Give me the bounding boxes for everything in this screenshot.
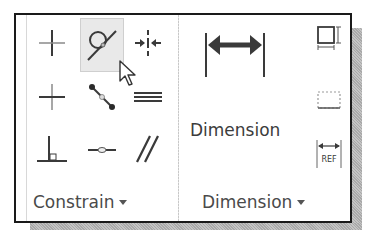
chevron-down-icon [119, 200, 127, 205]
coincident-icon [36, 27, 68, 59]
parallel-icon [132, 133, 164, 165]
linear-dimension-icon [202, 31, 268, 81]
concentric-icon [86, 133, 118, 165]
panel-separator [178, 15, 179, 221]
constrain-panel-dropdown[interactable]: Constrain [33, 192, 127, 212]
constrain-panel-label: Constrain [33, 192, 114, 212]
fix-icon [36, 81, 68, 113]
show-constraints-button[interactable] [314, 83, 344, 117]
equal-button[interactable] [128, 73, 168, 121]
driven-dimension-button[interactable]: REF [314, 137, 344, 171]
perpendicular-button[interactable] [32, 125, 72, 173]
svg-text:REF: REF [321, 155, 337, 164]
panel-inner-edge [26, 15, 27, 221]
tangent-icon [84, 27, 120, 63]
auto-dimension-button[interactable] [314, 21, 344, 55]
dimension-panel-dropdown[interactable]: Dimension [202, 192, 305, 212]
collinear-button[interactable] [82, 73, 122, 121]
equal-icon [132, 81, 164, 113]
auto-dimension-icon [315, 24, 343, 52]
symmetric-button[interactable] [128, 19, 168, 67]
perpendicular-icon [35, 132, 69, 166]
panel-shadow-right [352, 28, 362, 230]
collinear-icon [86, 81, 118, 113]
show-constraints-icon [315, 86, 343, 114]
chevron-down-icon [297, 200, 305, 205]
tangent-button[interactable] [80, 18, 124, 72]
symmetric-icon [132, 27, 164, 59]
parallel-button[interactable] [128, 125, 168, 173]
dimension-button[interactable]: Dimension [186, 23, 306, 183]
ribbon-panel: Constrain Dimension [14, 13, 352, 223]
driven-dimension-icon: REF [315, 138, 343, 170]
concentric-button[interactable] [82, 125, 122, 173]
panel-shadow-bottom [30, 223, 362, 230]
dimension-panel-label: Dimension [202, 192, 292, 212]
dimension-button-label: Dimension [190, 120, 280, 140]
coincident-button[interactable] [32, 19, 72, 67]
fix-button[interactable] [32, 73, 72, 121]
